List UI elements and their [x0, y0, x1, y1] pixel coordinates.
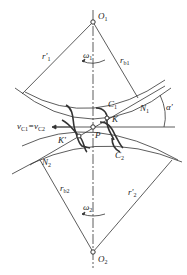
label-O1: O1: [98, 12, 108, 22]
point-K-prime: [77, 134, 81, 138]
label-N1: N1: [140, 104, 149, 114]
label-velocity: vC1=vC2: [17, 122, 45, 132]
label-r1-prime: r'1: [42, 52, 50, 62]
label-K-prime: K': [58, 136, 66, 145]
label-omega1: ω1: [83, 51, 92, 61]
label-O2: O2: [98, 255, 108, 265]
point-P: [91, 125, 95, 129]
label-rb2: rb2: [60, 184, 70, 194]
label-rb1: rb1: [120, 56, 130, 66]
point-O2: [91, 250, 95, 254]
label-C2: C2: [115, 151, 124, 161]
label-C1: C1: [108, 100, 117, 110]
alpha-arc: [160, 95, 165, 127]
label-P: P: [95, 131, 101, 140]
label-N2: N2: [42, 158, 51, 168]
radius-rb1: [93, 22, 138, 98]
gear-mesh-diagram: [0, 0, 187, 275]
omega2-arc: [82, 214, 105, 216]
label-omega2: ω2: [83, 203, 92, 213]
point-O1: [91, 20, 95, 24]
radius-r2-prime: [93, 160, 172, 252]
line-of-action: [30, 86, 165, 165]
label-alpha-prime: α': [166, 103, 173, 112]
label-K: K: [112, 115, 118, 124]
point-K: [105, 116, 109, 120]
base-circle-2: [12, 146, 182, 174]
label-r2-prime: r'2: [128, 188, 136, 198]
